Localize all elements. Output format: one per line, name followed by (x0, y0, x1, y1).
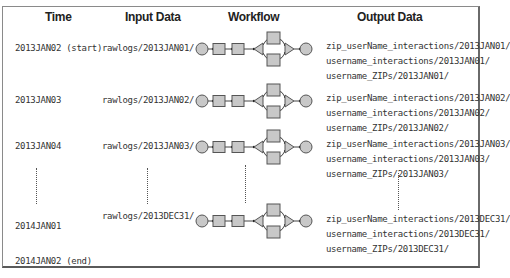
workflow-icon (0, 0, 484, 278)
